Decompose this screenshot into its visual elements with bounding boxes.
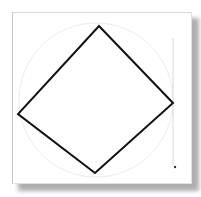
center-dot [95, 99, 96, 100]
endpoint-marker [174, 166, 176, 168]
diagram-canvas [0, 0, 201, 197]
diamond-shape[interactable] [18, 26, 173, 173]
